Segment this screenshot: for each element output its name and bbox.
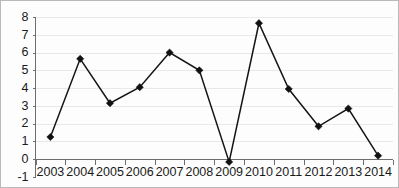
y-tick-label: 7 [22,28,29,42]
x-tick-label: 2014 [364,165,392,179]
chart-canvas: 876543210-1 2003200420052006200720082009… [1,1,399,188]
y-tick-label: 1 [22,134,29,148]
x-tick-label: 2006 [126,165,154,179]
x-tick-label: 2010 [245,165,273,179]
y-tick-label: 4 [22,81,29,95]
data-point-markers [47,20,382,166]
y-tick-label: 3 [22,99,29,113]
data-point-marker [375,152,382,159]
x-tick-label: 2004 [66,165,94,179]
x-tick-label: 2008 [185,165,213,179]
x-tick-label: 2009 [215,165,243,179]
y-tick-label: 2 [22,116,29,130]
y-tick-label: -1 [17,170,28,184]
x-tick-label: 2005 [96,165,124,179]
data-point-marker [196,67,203,74]
y-tick-label: 5 [22,63,29,77]
y-axis-tick-labels: 876543210-1 [17,10,28,184]
x-tick-label: 2013 [334,165,362,179]
gridlines-group [36,18,394,160]
line-chart: 876543210-1 2003200420052006200720082009… [0,0,399,188]
y-tick-label: 8 [22,10,29,24]
x-tick-label: 2007 [156,165,184,179]
x-axis-tick-labels: 2003200420052006200720082009201020112012… [36,165,392,179]
y-tick-label: 6 [22,45,29,59]
x-tick-label: 2003 [36,165,64,179]
x-tick-label: 2011 [275,165,302,179]
data-point-marker [255,20,262,27]
x-tick-label: 2012 [305,165,333,179]
y-tick-label: 0 [22,152,29,166]
data-point-marker [47,133,54,140]
